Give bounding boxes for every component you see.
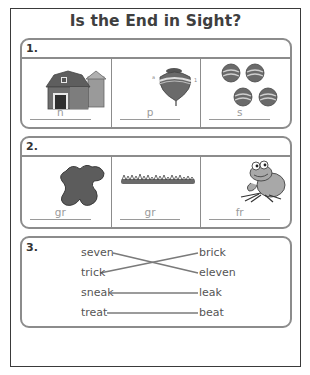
answer-blank[interactable]: s	[209, 107, 270, 120]
right-word-leak: leak	[199, 286, 222, 299]
section-header: 1.	[22, 40, 290, 59]
right-word-eleven: eleven	[199, 266, 236, 279]
right-word-beat: beat	[199, 306, 224, 319]
spinning-top-icon: a 1	[150, 65, 200, 107]
section-header: 2.	[22, 138, 290, 157]
section-number: 1.	[26, 42, 38, 55]
answer-blank[interactable]: gr	[30, 207, 91, 220]
picture-cell-top: a 1 p	[112, 59, 202, 127]
frog-icon	[239, 159, 289, 203]
left-word-sneak: sneak	[81, 286, 114, 299]
balls-icon	[221, 63, 287, 109]
grass-icon	[120, 174, 196, 186]
worksheet-title: Is the End in Sight?	[10, 12, 301, 30]
section-1: 1. n a 1	[20, 38, 292, 129]
left-word-treat: treat	[81, 306, 107, 319]
blob-icon	[56, 161, 106, 209]
matching-lines[interactable]	[22, 238, 290, 326]
answer-blank[interactable]: gr	[120, 207, 181, 220]
picture-cell-barn: n	[22, 59, 112, 127]
section-number: 2.	[26, 140, 38, 153]
picture-cell-frog: fr	[201, 157, 290, 227]
left-word-seven: seven	[81, 246, 114, 259]
barn-icon	[42, 67, 110, 111]
left-word-trick: trick	[81, 266, 105, 279]
picture-cell-balls: s	[201, 59, 290, 127]
picture-cell-grass: gr	[112, 157, 202, 227]
answer-blank[interactable]: fr	[209, 207, 270, 220]
right-word-brick: brick	[199, 246, 226, 259]
svg-text:1: 1	[194, 77, 197, 83]
picture-cell-blob: gr	[22, 157, 112, 227]
svg-text:a: a	[152, 74, 155, 80]
section-3: 3. seven trick sneak treat brick eleven …	[20, 236, 292, 328]
answer-blank[interactable]: p	[120, 107, 181, 120]
answer-blank[interactable]: n	[30, 107, 91, 120]
section-2: 2. gr gr	[20, 136, 292, 229]
